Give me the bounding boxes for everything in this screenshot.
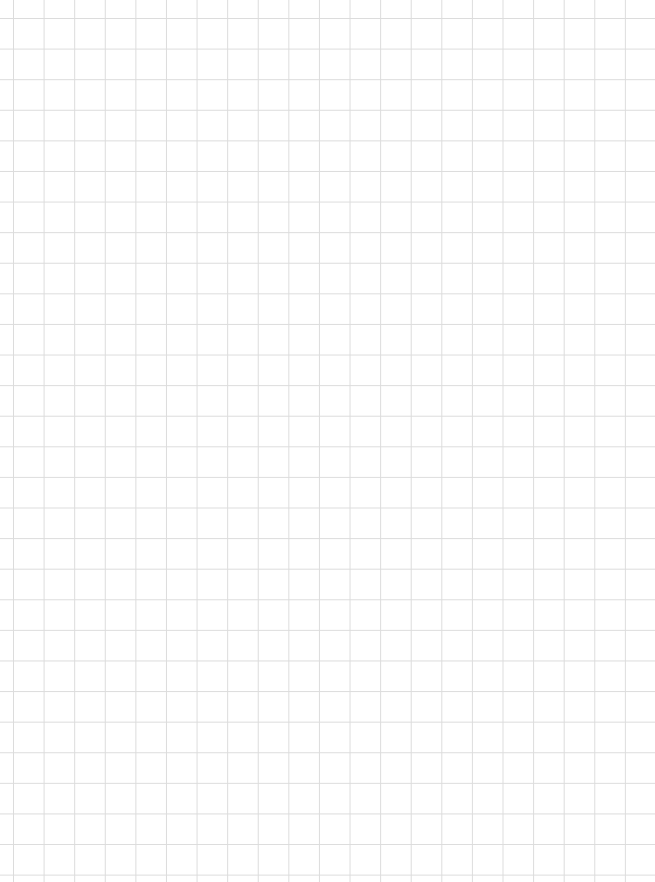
graph-paper-sheet: [0, 0, 655, 882]
